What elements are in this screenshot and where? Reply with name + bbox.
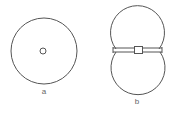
- panel-b: b: [110, 6, 165, 106]
- panel-b-label: b: [135, 97, 140, 106]
- panel-a-label: a: [42, 87, 47, 96]
- top-circle: [110, 6, 164, 49]
- bottom-circle: [111, 52, 165, 95]
- inner-circle: [40, 48, 46, 54]
- panel-a: a: [11, 18, 77, 96]
- center-square: [135, 47, 143, 54]
- diagram-canvas: a b: [0, 0, 172, 114]
- outer-circle: [11, 18, 77, 84]
